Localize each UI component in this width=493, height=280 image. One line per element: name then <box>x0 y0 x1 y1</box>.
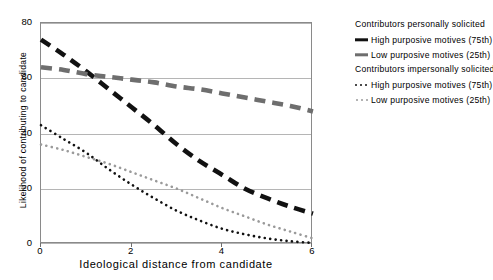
legend-item-low-impersonal[interactable]: Low purposive motives (25th) <box>355 92 493 107</box>
legend-item-label: High purposive motives (75th) <box>371 80 492 90</box>
x-tick-6: 6 <box>309 246 314 256</box>
legend-item-low-personal[interactable]: Low purposive motives (25th) <box>355 47 493 62</box>
x-tickmark-4 <box>221 243 222 247</box>
dotted-black-icon <box>355 78 368 91</box>
x-tick-2: 2 <box>128 246 133 256</box>
x-tickmark-6 <box>311 243 312 247</box>
dotted-gray-icon <box>355 93 368 106</box>
legend-item-label: High purposive motives (75th) <box>371 35 492 45</box>
x-axis-title: Ideological distance from candidate <box>40 258 312 270</box>
legend-group-header-personal: Contributors personally solicited <box>355 17 493 32</box>
chart-legend: Contributors personally solicited High p… <box>355 17 493 107</box>
legend-item-high-impersonal[interactable]: High purposive motives (75th) <box>355 77 493 92</box>
x-tickmark-0 <box>40 243 41 247</box>
x-tick-4: 4 <box>219 246 224 256</box>
y-axis-title: Likelihood of contributing to candidate <box>18 45 28 215</box>
legend-item-high-personal[interactable]: High purposive motives (75th) <box>355 32 493 47</box>
thick-dash-gray-icon <box>355 48 368 61</box>
x-tickmark-2 <box>131 243 132 247</box>
thick-dash-black-icon <box>355 33 368 46</box>
legend-item-label: Low purposive motives (25th) <box>371 50 490 60</box>
x-tick-0: 0 <box>37 246 42 256</box>
legend-item-label: Low purposive motives (25th) <box>371 95 490 105</box>
chart-figure: 80 60 40 20 0 0 2 4 6 Ideological distan… <box>0 0 493 280</box>
legend-group-header-impersonal: Contributors impersonally solicited <box>355 62 493 77</box>
